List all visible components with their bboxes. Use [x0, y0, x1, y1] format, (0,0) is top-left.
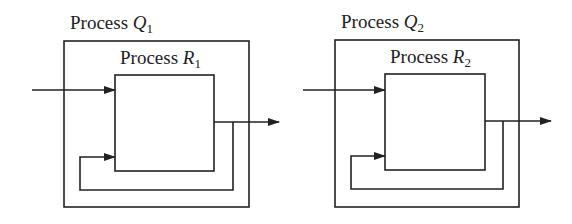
feedback-loop [80, 122, 233, 190]
label-variable: Q [133, 12, 147, 33]
label-process-r1: Process R1 [120, 48, 201, 67]
label-process-q2: Process Q2 [341, 12, 424, 31]
label-text: Process [390, 46, 453, 67]
label-subscript: 2 [418, 20, 425, 35]
label-process-q1: Process Q1 [70, 13, 153, 32]
process-diagrams [0, 0, 572, 224]
label-subscript: 2 [464, 55, 471, 70]
feedback-loop [351, 121, 503, 189]
label-variable: Q [404, 11, 418, 32]
label-subscript: 1 [147, 21, 154, 36]
label-text: Process [120, 47, 183, 68]
label-text: Process [70, 12, 133, 33]
label-variable: R [183, 47, 195, 68]
label-process-r2: Process R2 [390, 47, 471, 66]
inner-box-r2 [385, 74, 485, 170]
label-subscript: 1 [194, 56, 201, 71]
label-variable: R [453, 46, 465, 67]
label-text: Process [341, 11, 404, 32]
inner-box-r1 [115, 75, 214, 171]
